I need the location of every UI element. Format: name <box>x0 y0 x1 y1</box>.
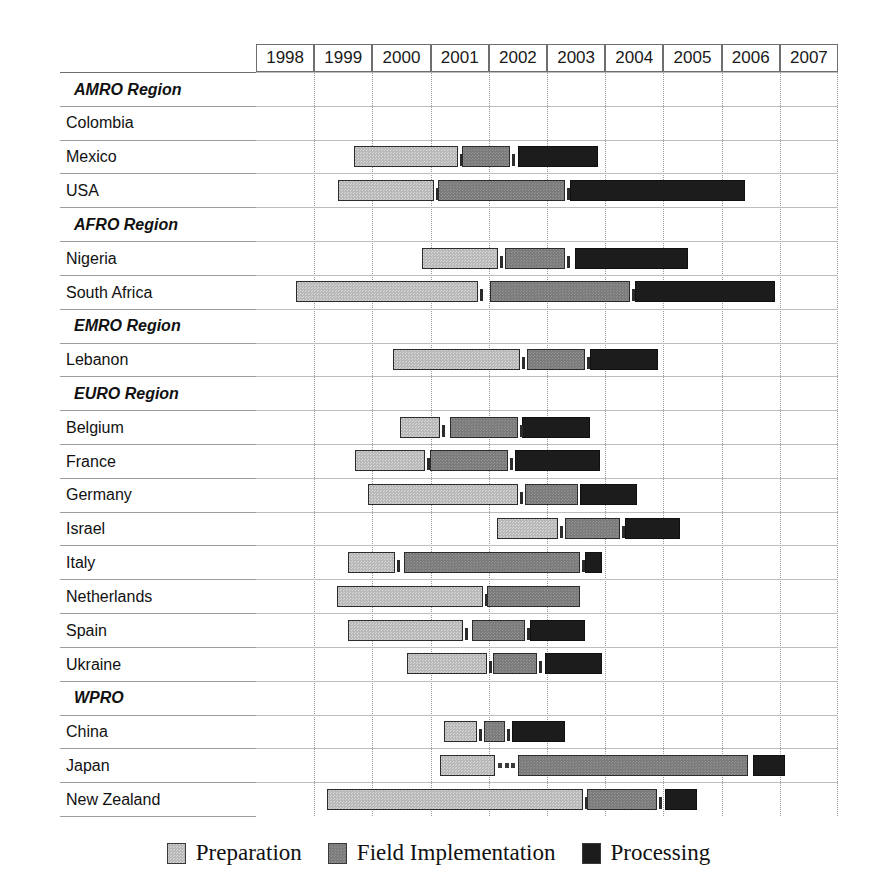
row-label-israel: Israel <box>60 512 256 546</box>
bar-japan-proc <box>753 755 785 776</box>
legend-item-field: Field Implementation <box>328 840 556 866</box>
bar-germany-field <box>525 484 578 505</box>
row-separator <box>256 241 838 242</box>
bar-nigeria-proc <box>575 248 688 269</box>
row-separator <box>256 715 838 716</box>
phase-milestone-tick <box>480 289 483 301</box>
row-label-new-zealand: New Zealand <box>60 782 256 816</box>
row-separator <box>256 106 838 107</box>
bar-mexico-field <box>462 146 510 167</box>
row-separator <box>256 545 838 546</box>
bar-new-zealand-prep <box>327 789 583 810</box>
row-label-south-africa: South Africa <box>60 275 256 309</box>
bar-lebanon-proc <box>590 349 658 370</box>
phase-milestone-tick <box>520 425 523 437</box>
phase-milestone-tick <box>567 188 570 200</box>
row-label-amro-region: AMRO Region <box>60 72 256 106</box>
year-header-1999: 1999 <box>314 44 372 72</box>
legend-swatch-prep-icon <box>167 843 186 864</box>
bar-lebanon-field <box>527 349 585 370</box>
row-separator <box>256 478 838 479</box>
phase-milestone-tick <box>507 729 510 741</box>
bar-usa-field <box>438 180 565 201</box>
row-separator <box>256 207 838 208</box>
phase-milestone-tick <box>479 729 482 741</box>
bar-lebanon-prep <box>393 349 520 370</box>
bar-france-proc <box>515 450 600 471</box>
bar-netherlands-prep <box>337 586 483 607</box>
legend-item-prep: Preparation <box>167 840 302 866</box>
phase-milestone-tick <box>460 154 463 166</box>
phase-milestone-tick <box>500 256 503 268</box>
bar-italy-prep <box>348 552 395 573</box>
phase-milestone-tick <box>567 256 570 268</box>
row-label-japan: Japan <box>60 748 256 782</box>
row-label-nigeria: Nigeria <box>60 241 256 275</box>
row-label-afro-region: AFRO Region <box>60 207 256 241</box>
label-column-bottom-border <box>60 816 256 817</box>
bar-belgium-field <box>450 417 518 438</box>
bar-israel-prep <box>497 518 558 539</box>
bar-china-proc <box>512 721 565 742</box>
chart-legend: PreparationField ImplementationProcessin… <box>0 840 877 866</box>
row-label-netherlands: Netherlands <box>60 579 256 613</box>
row-label-spain: Spain <box>60 613 256 647</box>
phase-milestone-tick <box>539 661 542 673</box>
bar-spain-prep <box>348 620 463 641</box>
phase-milestone-tick <box>587 357 590 369</box>
bar-usa-prep <box>338 180 434 201</box>
year-header-2002: 2002 <box>489 44 547 72</box>
phase-milestone-tick <box>585 797 588 809</box>
legend-label-proc: Processing <box>611 840 711 866</box>
bar-spain-field <box>472 620 525 641</box>
row-label-emro-region: EMRO Region <box>60 309 256 343</box>
year-header-2007: 2007 <box>780 44 838 72</box>
row-label-wpro: WPRO <box>60 681 256 715</box>
legend-label-field: Field Implementation <box>357 840 556 866</box>
legend-item-proc: Processing <box>582 840 711 866</box>
row-separator <box>256 140 838 141</box>
row-label-china: China <box>60 715 256 749</box>
phase-milestone-tick <box>485 594 488 606</box>
phase-milestone-tick <box>442 425 445 437</box>
row-label-germany: Germany <box>60 478 256 512</box>
phase-milestone-tick <box>659 797 662 809</box>
phase-continuation-dots <box>498 755 515 776</box>
row-label-italy: Italy <box>60 545 256 579</box>
year-header-2006: 2006 <box>722 44 780 72</box>
phase-milestone-tick <box>560 526 563 538</box>
bar-italy-field <box>404 552 580 573</box>
bar-new-zealand-field <box>587 789 657 810</box>
year-header-2004: 2004 <box>605 44 663 72</box>
legend-label-prep: Preparation <box>196 840 302 866</box>
row-separator <box>256 72 838 73</box>
row-label-france: France <box>60 444 256 478</box>
bar-mexico-proc <box>518 146 598 167</box>
bar-italy-proc <box>585 552 602 573</box>
row-separator <box>256 173 838 174</box>
bar-japan-field <box>518 755 748 776</box>
row-separator <box>256 444 838 445</box>
phase-milestone-tick <box>436 188 439 200</box>
bar-nigeria-prep <box>422 248 498 269</box>
bar-china-field <box>484 721 505 742</box>
row-label-lebanon: Lebanon <box>60 343 256 377</box>
bar-south-africa-field <box>490 281 630 302</box>
bar-belgium-proc <box>522 417 590 438</box>
row-separator <box>256 782 838 783</box>
bar-nigeria-field <box>505 248 565 269</box>
legend-swatch-proc-icon <box>582 843 601 864</box>
bar-mexico-prep <box>354 146 458 167</box>
row-separator <box>256 309 838 310</box>
year-header-2001: 2001 <box>431 44 489 72</box>
row-label-usa: USA <box>60 173 256 207</box>
bar-france-field <box>430 450 508 471</box>
timeline-grid: 1998199920002001200220032004200520062007 <box>256 44 838 816</box>
bar-new-zealand-proc <box>665 789 697 810</box>
row-label-ukraine: Ukraine <box>60 647 256 681</box>
row-label-column: AMRO RegionColombiaMexicoUSAAFRO RegionN… <box>60 72 256 816</box>
bar-ukraine-proc <box>545 653 602 674</box>
row-label-belgium: Belgium <box>60 410 256 444</box>
phase-milestone-tick <box>527 628 530 640</box>
phase-milestone-tick <box>622 526 625 538</box>
